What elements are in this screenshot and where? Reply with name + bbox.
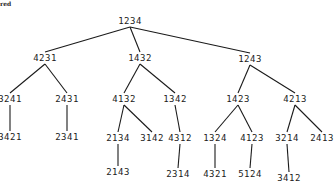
- tree-edge: [178, 144, 180, 168]
- tree-edge: [250, 144, 252, 168]
- tree-node-2134: 2134: [106, 133, 130, 143]
- tree-node-2413: 2413: [310, 133, 334, 143]
- tree-node-3142: 3142: [140, 133, 164, 143]
- tree-node-1234: 1234: [118, 16, 142, 26]
- tree-edge: [287, 105, 295, 132]
- tree-node-4132: 4132: [112, 94, 136, 104]
- tree-edge: [238, 105, 252, 132]
- tree-edge: [250, 65, 295, 93]
- tree-edge: [140, 64, 175, 93]
- tree-node-4231: 4231: [33, 53, 57, 63]
- tree-edge: [118, 105, 124, 132]
- tree-node-3421: 3421: [0, 132, 22, 142]
- tree-edge: [215, 105, 238, 132]
- tree-node-3241: 3241: [0, 94, 22, 104]
- tree-node-1432: 1432: [128, 53, 152, 63]
- tree-edge: [175, 105, 180, 132]
- tree-edge: [238, 65, 250, 93]
- tree-node-4213: 4213: [283, 94, 307, 104]
- tree-node-1342: 1342: [163, 94, 187, 104]
- tree-node-2143: 2143: [106, 167, 130, 177]
- tree-edge: [45, 27, 130, 52]
- tree-node-3214: 3214: [275, 133, 299, 143]
- tree-edge: [10, 64, 45, 93]
- tree-node-5124: 5124: [238, 169, 262, 179]
- tree-edge: [130, 27, 140, 52]
- tree-edge: [124, 64, 140, 93]
- tree-node-3412: 3412: [277, 173, 301, 183]
- tree-edge: [295, 105, 322, 132]
- tree-node-4321: 4321: [203, 169, 227, 179]
- tree-node-2431: 2431: [55, 94, 79, 104]
- tree-node-2341: 2341: [55, 132, 79, 142]
- tree-node-4123: 4123: [240, 133, 264, 143]
- tree-edge: [287, 144, 289, 172]
- tree-node-2314: 2314: [166, 169, 190, 179]
- tree-edge: [130, 27, 250, 53]
- tree-node-1243: 1243: [238, 54, 262, 64]
- tree-node-4312: 4312: [168, 133, 192, 143]
- tree-edge: [45, 64, 67, 93]
- tree-edge: [124, 105, 152, 132]
- tree-node-1324: 1324: [203, 133, 227, 143]
- tree-node-1423: 1423: [226, 94, 250, 104]
